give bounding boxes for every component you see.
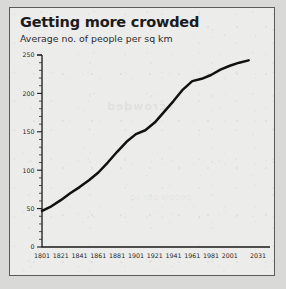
plot-area: 0501001502002501801182118411861188119011… xyxy=(10,8,275,276)
x-axis-tick-label: 1961 xyxy=(184,252,200,259)
y-axis-tick-label: 50 xyxy=(26,205,34,212)
x-axis-tick-label: 1861 xyxy=(90,252,106,259)
x-axis-tick-label: 1941 xyxy=(165,252,181,259)
x-axis-tick-label: 1841 xyxy=(72,252,88,259)
x-axis-tick-label: 1981 xyxy=(203,252,219,259)
y-axis-tick-label: 200 xyxy=(22,90,34,97)
y-axis-tick-label: 100 xyxy=(22,167,34,174)
x-axis-tick-label: 1921 xyxy=(147,252,163,259)
y-axis-tick-label: 150 xyxy=(22,128,34,135)
y-axis-tick-label: 0 xyxy=(30,243,34,250)
chart-panel: crowded people per sq Getting more crowd… xyxy=(9,7,275,276)
x-axis-tick-label: 1801 xyxy=(34,252,50,259)
line-chart: 0501001502002501801182118411861188119011… xyxy=(10,8,275,276)
y-axis-tick-label: 250 xyxy=(22,51,34,58)
x-axis-tick-label: 1881 xyxy=(109,252,125,259)
data-series-line xyxy=(42,60,249,211)
x-axis-tick-label: 2031 xyxy=(250,252,266,259)
x-axis-tick-label: 1821 xyxy=(53,252,69,259)
screenshot-root: crowded people per sq Getting more crowd… xyxy=(0,0,286,289)
x-axis-tick-label: 2001 xyxy=(222,252,238,259)
x-axis-tick-label: 1901 xyxy=(128,252,144,259)
